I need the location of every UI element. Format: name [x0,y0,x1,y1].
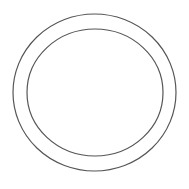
diagram-canvas [0,0,189,189]
concentric-circles-diagram [0,0,189,189]
outer-circle [13,14,176,171]
inner-circle [27,29,163,156]
